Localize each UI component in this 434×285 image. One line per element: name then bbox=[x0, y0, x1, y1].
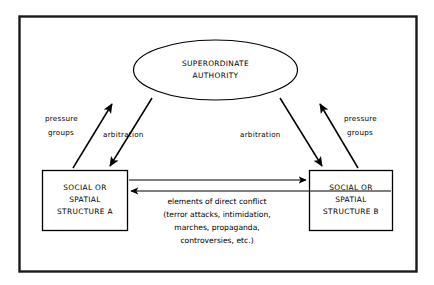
authority-label-line2: AUTHORITY bbox=[193, 71, 239, 80]
structure-a-line3: STRUCTURE A bbox=[57, 207, 113, 216]
label-left-pressure-line2: groups bbox=[48, 128, 74, 137]
conflict-label-line3: marches, propaganda, bbox=[174, 223, 260, 232]
diagram-canvas: SUPERORDINATE AUTHORITY SOCIAL OR SPATIA… bbox=[0, 0, 434, 285]
label-left-arbitration: arbitration bbox=[103, 130, 144, 139]
label-left-pressure-line1: pressure bbox=[45, 114, 78, 123]
label-right-pressure-line1: pressure bbox=[344, 114, 377, 123]
node-superordinate-authority bbox=[134, 40, 298, 100]
conflict-label-line1: elements of direct conflict bbox=[167, 197, 266, 206]
structure-a-line1: SOCIAL OR bbox=[63, 183, 106, 192]
label-right-pressure-line2: groups bbox=[347, 128, 373, 137]
structure-b-line3: STRUCTURE B bbox=[323, 207, 379, 216]
diagram-svg: SUPERORDINATE AUTHORITY SOCIAL OR SPATIA… bbox=[0, 0, 434, 285]
label-right-arbitration: arbitration bbox=[240, 130, 281, 139]
authority-label-line1: SUPERORDINATE bbox=[182, 59, 249, 68]
structure-b-line2: SPATIAL bbox=[335, 195, 367, 204]
conflict-label-line4: controversies, etc.) bbox=[180, 236, 253, 245]
conflict-label-line2: (terror attacks, intimidation, bbox=[163, 210, 270, 219]
structure-a-line2: SPATIAL bbox=[69, 195, 101, 204]
